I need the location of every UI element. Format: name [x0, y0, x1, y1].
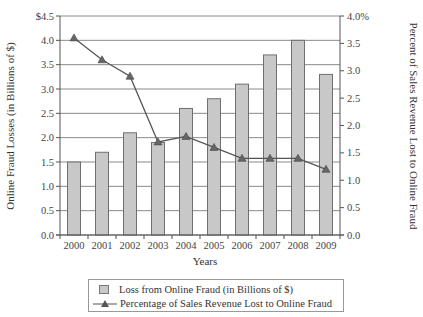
x-tick-label: 2000 [64, 240, 85, 251]
x-tick-label: 2004 [176, 240, 198, 251]
x-tick-label: 2006 [232, 240, 253, 251]
line-path [74, 38, 326, 169]
x-tick-label: 2003 [148, 240, 169, 251]
triangle-marker-icon [126, 72, 134, 79]
y-tick-label: 1.0 [41, 181, 54, 192]
y-axis-title: Online Fraud Losses (in Billions of $) [4, 42, 17, 210]
bar [292, 40, 305, 235]
bar [208, 99, 221, 235]
y2-tick-label: 4.0% [347, 11, 369, 22]
bar [180, 108, 193, 235]
legend-item-line: Percentage of Sales Revenue Lost to Onli… [93, 296, 332, 310]
y2-tick-label: 2.5 [347, 93, 360, 104]
bar [96, 152, 109, 235]
y-tick-label: 3.0 [41, 84, 54, 95]
y2-tick-label: 3.5 [347, 38, 360, 49]
y-tick-label: 0.0 [41, 230, 54, 241]
bar [320, 74, 333, 235]
y2-tick-label: 0.5 [347, 202, 360, 213]
x-tick-label: 2005 [204, 240, 225, 251]
y-tick-label: 3.5 [41, 59, 54, 70]
legend: Loss from Online Fraud (in Billions of $… [88, 279, 344, 312]
legend-item-bar: Loss from Online Fraud (in Billions of $… [93, 282, 293, 296]
y2-tick-label: 0.0 [347, 230, 360, 241]
y-tick-label: $4.5 [36, 11, 54, 22]
x-axis-title: Years [193, 255, 218, 267]
x-tick-label: 2001 [92, 240, 113, 251]
legend-line-label: Percentage of Sales Revenue Lost to Onli… [120, 298, 332, 309]
triangle-marker-icon [70, 34, 78, 41]
chart: $4.54.03.53.02.52.01.51.00.50.04.0%3.53.… [0, 0, 423, 317]
y2-axis-title: Percent of Sales Revenue Lost to Online … [408, 23, 420, 230]
triangle-line-icon [93, 299, 117, 309]
bar [68, 162, 81, 235]
y2-tick-label: 1.5 [347, 147, 360, 158]
y2-tick-label: 3.0 [347, 65, 360, 76]
x-tick-label: 2008 [288, 240, 309, 251]
bar [152, 143, 165, 235]
y-tick-label: 2.5 [41, 108, 54, 119]
y2-tick-label: 1.0 [347, 175, 360, 186]
bar [124, 133, 137, 235]
y2-tick-label: 2.0 [347, 120, 360, 131]
y-tick-label: 0.5 [41, 205, 54, 216]
bar-swatch-icon [99, 285, 109, 294]
x-tick-label: 2007 [260, 240, 281, 251]
legend-bar-label: Loss from Online Fraud (in Billions of $… [119, 284, 293, 295]
bar [264, 55, 277, 235]
y-tick-label: 4.0 [41, 35, 54, 46]
y-tick-label: 1.5 [41, 157, 54, 168]
x-tick-label: 2009 [316, 240, 337, 251]
x-tick-label: 2002 [120, 240, 141, 251]
y-tick-label: 2.0 [41, 132, 54, 143]
